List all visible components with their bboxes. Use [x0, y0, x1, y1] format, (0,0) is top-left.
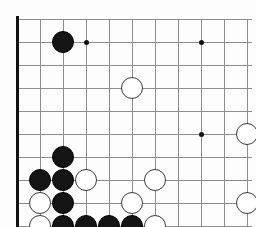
stone-white[interactable]	[75, 169, 97, 191]
star-point-center-right-icon	[199, 132, 204, 137]
stone-white[interactable]	[121, 77, 143, 99]
stone-black[interactable]	[29, 169, 51, 191]
stone-white[interactable]	[236, 123, 256, 145]
stone-white[interactable]	[236, 192, 256, 214]
star-point-upper-right-icon	[199, 40, 204, 45]
star-point-upper-left-icon	[84, 40, 89, 45]
stone-white[interactable]	[144, 169, 166, 191]
stone-white[interactable]	[29, 192, 51, 214]
stone-white[interactable]	[121, 192, 143, 214]
stone-black[interactable]	[52, 192, 74, 214]
go-diagram-screen: 54213	[0, 0, 256, 227]
stone-black[interactable]	[52, 31, 74, 53]
stone-black[interactable]	[52, 146, 74, 168]
stone-black[interactable]	[52, 169, 74, 191]
